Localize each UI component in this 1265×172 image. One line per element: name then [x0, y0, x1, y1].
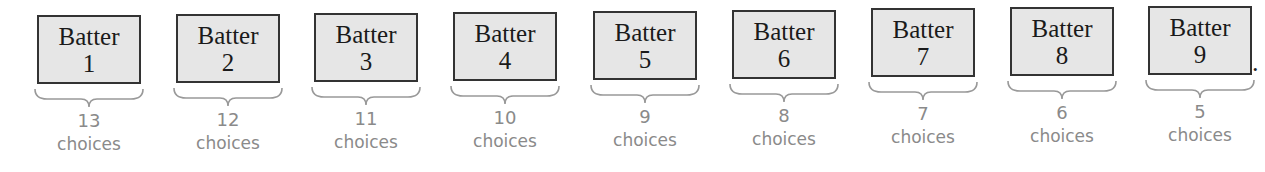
batter-box: Batter 7: [871, 8, 975, 77]
batter-number: 9: [1194, 41, 1207, 68]
curly-brace-icon: [33, 87, 145, 109]
batter-number: 8: [1056, 42, 1069, 69]
choice-unit: choices: [732, 129, 836, 149]
choice-unit: choices: [37, 134, 141, 154]
choice-count: 12: [176, 109, 280, 130]
batter-number: 1: [83, 50, 96, 77]
batter-label: Batter: [753, 18, 814, 45]
batter-number: 5: [639, 46, 652, 73]
curly-brace-icon: [449, 84, 561, 106]
batter-label: Batter: [197, 22, 258, 49]
batter-box: Batter 3: [314, 13, 418, 82]
choice-count: 13: [37, 110, 141, 131]
choice-count: 11: [314, 108, 418, 129]
choice-unit: choices: [1148, 125, 1252, 145]
batter-number: 2: [222, 49, 235, 76]
batter-label: Batter: [1031, 15, 1092, 42]
choice-count: 9: [593, 106, 697, 127]
choice-unit: choices: [314, 132, 418, 152]
batter-label: Batter: [474, 20, 535, 47]
choice-unit: choices: [593, 130, 697, 150]
batter-box: Batter 5: [593, 11, 697, 80]
batter-box: Batter 1: [37, 15, 141, 84]
batter-box: Batter 6: [732, 10, 836, 79]
choice-count: 6: [1010, 102, 1114, 123]
batter-box: Batter 8: [1010, 7, 1114, 76]
curly-brace-icon: [728, 82, 840, 104]
curly-brace-icon: [867, 80, 979, 102]
batter-number: 6: [778, 45, 791, 72]
batter-number: 7: [917, 43, 930, 70]
choice-unit: choices: [453, 131, 557, 151]
batter-label: Batter: [335, 21, 396, 48]
choice-count: 7: [871, 103, 975, 124]
batter-label: Batter: [892, 16, 953, 43]
curly-brace-icon: [172, 86, 284, 108]
batter-label: Batter: [614, 19, 675, 46]
curly-brace-icon: [589, 83, 701, 105]
batter-label: Batter: [1169, 14, 1230, 41]
choice-unit: choices: [871, 127, 975, 147]
curly-brace-icon: [1144, 78, 1256, 100]
choice-count: 5: [1148, 101, 1252, 122]
trailing-period: .: [1252, 48, 1259, 78]
choice-count: 8: [732, 105, 836, 126]
batter-number: 4: [499, 47, 512, 74]
batter-box: Batter 4: [453, 12, 557, 81]
curly-brace-icon: [1006, 79, 1118, 101]
curly-brace-icon: [310, 85, 422, 107]
batter-box: Batter 2: [176, 14, 280, 83]
batter-number: 3: [360, 48, 373, 75]
batter-box: Batter 9: [1148, 6, 1252, 75]
choice-unit: choices: [176, 133, 280, 153]
batter-label: Batter: [58, 23, 119, 50]
choice-unit: choices: [1010, 126, 1114, 146]
choice-count: 10: [453, 107, 557, 128]
